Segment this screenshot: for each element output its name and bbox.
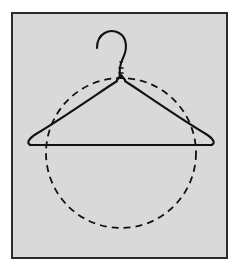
figure-container: [0, 0, 243, 273]
figure-canvas: [0, 0, 243, 273]
paper-texture: [13, 14, 226, 257]
